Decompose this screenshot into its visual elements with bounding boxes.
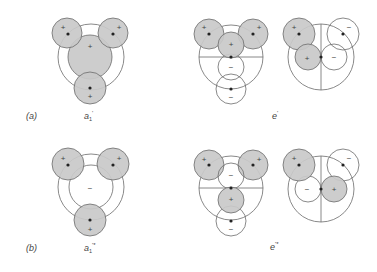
diagram-e-prime-right: + − + − <box>283 18 359 90</box>
sign-upper-left: + <box>202 23 207 32</box>
sign-lower-right: − <box>332 53 337 62</box>
sign-bottom: + <box>88 92 93 101</box>
atom-dot <box>111 163 114 166</box>
atom-dot <box>229 219 232 222</box>
diagram-e-prime-left: + + + − − <box>194 19 268 104</box>
diagram-label-a1-prime: a1' <box>84 110 93 122</box>
sign-upper-right: + <box>257 155 262 164</box>
sign-upper-right: + <box>117 23 122 32</box>
atom-dot <box>319 55 322 58</box>
panel-b: + + − + + + − + − <box>26 148 359 254</box>
sign-upper-right: + <box>257 23 262 32</box>
sign-upper-left: + <box>202 155 207 164</box>
sign-upper-left: + <box>61 23 66 32</box>
atom-dot <box>88 218 91 221</box>
atom-dot <box>341 163 344 166</box>
diagram-label-e-prime-star: e'* <box>270 241 279 252</box>
atom-dot <box>229 55 232 58</box>
atom-dot <box>341 32 344 35</box>
diagram-a1-prime-star: + + − + <box>52 148 129 236</box>
sign-upper-right: − <box>347 23 352 32</box>
sign-bottom: − <box>229 93 234 102</box>
atom-dot <box>66 32 69 35</box>
atom-dot <box>66 163 69 166</box>
panel-label-b: (b) <box>26 243 37 253</box>
sign-bottom: − <box>229 225 234 234</box>
diagram-label-a1-prime-star: a1'* <box>84 242 96 254</box>
atom-dot <box>229 186 232 189</box>
sign-upper-right: + <box>117 154 122 163</box>
sign-middle-upper: − <box>229 171 234 180</box>
sign-lower-left: − <box>305 185 310 194</box>
sign-center: − <box>88 184 93 193</box>
sign-bottom: + <box>88 225 93 234</box>
sign-upper-right: − <box>347 154 352 163</box>
atom-dot <box>319 187 322 190</box>
atom-dot <box>297 163 300 166</box>
diagram-label-e-prime: e' <box>272 110 278 121</box>
sign-lower-left: + <box>305 54 310 63</box>
atom-dot <box>88 86 91 89</box>
atom-dot <box>229 87 232 90</box>
atom-dot <box>207 163 210 166</box>
sign-middle-lower: + <box>229 195 234 204</box>
sign-upper-left: + <box>292 23 297 32</box>
diagram-a1-prime: + + + + <box>52 18 128 104</box>
atom-dot <box>207 32 210 35</box>
diagram-e-prime-star-right: + − − + <box>283 149 359 222</box>
sign-middle-upper: + <box>229 40 234 49</box>
atom-dot <box>251 163 254 166</box>
panel-a: + + + + + + + − − <box>26 18 359 122</box>
atom-dot <box>251 32 254 35</box>
panel-label-a: (a) <box>26 111 37 121</box>
diagram-e-prime-star-left: + + − + − <box>194 150 268 236</box>
sign-upper-left: + <box>292 154 297 163</box>
atom-dot <box>111 32 114 35</box>
sign-lower-right: + <box>332 185 337 194</box>
atom-dot <box>297 32 300 35</box>
orbital-diagram-figure: + + + + + + + − − <box>0 0 377 272</box>
sign-upper-left: + <box>61 154 66 163</box>
sign-center: + <box>88 42 93 51</box>
sign-middle-lower: − <box>229 63 234 72</box>
